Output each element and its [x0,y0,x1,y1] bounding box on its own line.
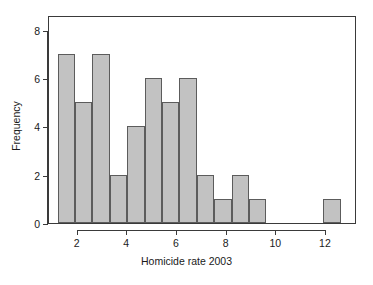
x-tick-label: 10 [269,237,281,249]
y-tick-label: 8 [34,25,40,37]
x-tick-mark [126,230,127,235]
histogram-bar [162,102,179,223]
x-tick-mark [226,230,227,235]
histogram-bar [232,175,249,223]
histogram-bar [110,175,127,223]
x-tick-label: 12 [319,237,331,249]
x-axis-label: Homicide rate 2003 [0,255,373,267]
histogram-bar [145,78,162,223]
y-tick-label: 2 [34,170,40,182]
histogram-figure: 02468 Frequency 24681012 Homicide rate 2… [0,0,373,285]
y-axis-label: Frequency [10,76,22,176]
y-tick-label: 4 [34,121,40,133]
x-axis: 24681012 Homicide rate 2003 [0,224,373,285]
x-tick-mark [275,230,276,235]
x-tick-label: 6 [173,237,179,249]
y-tick-label: 6 [34,73,40,85]
histogram-bar [323,199,340,223]
x-axis-line [77,230,325,231]
plot-area [48,16,356,224]
x-tick-label: 8 [223,237,229,249]
x-tick-label: 2 [74,237,80,249]
histogram-bar [249,199,266,223]
histogram-bar [58,54,75,223]
x-tick-label: 4 [123,237,129,249]
x-tick-mark [325,230,326,235]
histogram-bars [49,17,355,223]
histogram-bar [92,54,109,223]
histogram-bar [214,199,231,223]
x-tick-mark [176,230,177,235]
histogram-bar [179,78,196,223]
histogram-bar [197,175,214,223]
x-tick-mark [77,230,78,235]
histogram-bar [127,126,144,223]
histogram-bar [75,102,92,223]
